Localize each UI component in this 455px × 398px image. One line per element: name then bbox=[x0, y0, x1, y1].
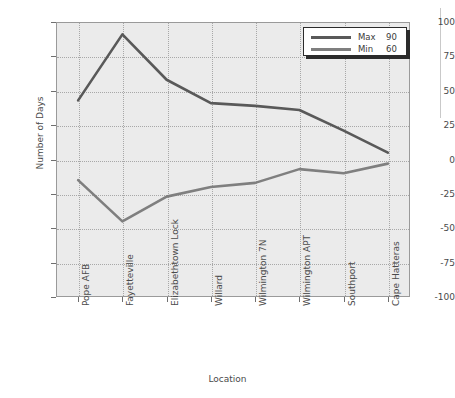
y-tick-mark bbox=[51, 91, 56, 92]
series-line-min bbox=[78, 164, 388, 222]
legend-swatch-min bbox=[311, 48, 351, 51]
x-tick-label: Wilmington 7N bbox=[259, 240, 268, 306]
y-tick-label: -75 bbox=[411, 258, 455, 268]
x-tick-label: Wilmington APT bbox=[303, 235, 312, 306]
x-tick-mark bbox=[78, 297, 79, 302]
x-tick-mark bbox=[255, 297, 256, 302]
y-tick-mark bbox=[51, 160, 56, 161]
series-layer bbox=[56, 22, 410, 297]
x-tick-label: Pope AFB bbox=[82, 264, 91, 306]
y-tick-mark bbox=[51, 194, 56, 195]
y-tick-mark bbox=[51, 56, 56, 57]
y-tick-mark bbox=[51, 22, 56, 23]
x-tick-mark bbox=[344, 297, 345, 302]
legend-label: Max bbox=[358, 32, 376, 42]
y-tick-mark bbox=[51, 125, 56, 126]
legend-value: 90 bbox=[386, 32, 397, 42]
y-tick-label: -100 bbox=[411, 292, 455, 302]
y-tick-mark bbox=[51, 263, 56, 264]
x-tick-mark bbox=[299, 297, 300, 302]
y-tick-label: -50 bbox=[411, 223, 455, 233]
legend-swatch-max bbox=[311, 36, 351, 39]
x-tick-label: Cape Hatteras bbox=[392, 241, 401, 306]
y-tick-label: 100 bbox=[411, 17, 455, 27]
y-tick-mark bbox=[51, 297, 56, 298]
y-tick-label: 0 bbox=[411, 155, 455, 165]
y-axis-title: Number of Days bbox=[35, 73, 45, 193]
legend-label: Min bbox=[358, 44, 373, 54]
x-tick-mark bbox=[122, 297, 123, 302]
x-axis-title: Location bbox=[0, 374, 455, 384]
y-tick-label: 50 bbox=[411, 86, 455, 96]
y-tick-label: -25 bbox=[411, 189, 455, 199]
x-tick-label: Fayetteville bbox=[126, 254, 135, 306]
y-tick-mark bbox=[51, 228, 56, 229]
x-tick-mark bbox=[388, 297, 389, 302]
y-tick-label: 75 bbox=[411, 51, 455, 61]
x-tick-label: Willard bbox=[215, 275, 224, 306]
x-tick-mark bbox=[211, 297, 212, 302]
x-tick-label: Elizabethtown Lock bbox=[171, 219, 180, 306]
x-tick-mark bbox=[167, 297, 168, 302]
y-tick-label: 25 bbox=[411, 120, 455, 130]
x-tick-label: Southport bbox=[348, 261, 357, 306]
legend-row[interactable]: Min60 bbox=[304, 43, 406, 56]
legend-value: 60 bbox=[386, 44, 397, 54]
legend[interactable]: Max90Min60 bbox=[303, 27, 407, 56]
line-chart: 1007550250-25-50-75-100 Pope AFBFayettev… bbox=[0, 0, 455, 398]
